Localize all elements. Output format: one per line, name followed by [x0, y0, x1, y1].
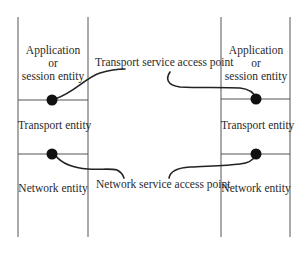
network-sap-label: Network service access point	[96, 178, 214, 191]
left-transport-sap-dot	[47, 95, 58, 106]
left-network-sap-dot	[47, 149, 58, 160]
left-network-entity-label: Network entity	[18, 182, 88, 195]
right-transport-entity-label: Transport entity	[221, 119, 291, 132]
transport-sap-label: Transport service access point	[95, 56, 215, 69]
network-sap-left-leader	[55, 155, 124, 178]
right-network-sap-dot	[251, 149, 262, 160]
left-application-session-label: Application or session entity	[18, 44, 88, 83]
right-transport-sap-dot	[251, 94, 262, 105]
network-sap-right-leader	[169, 155, 256, 178]
left-transport-entity-label: Transport entity	[18, 119, 88, 132]
right-network-entity-label: Network entity	[221, 182, 291, 195]
